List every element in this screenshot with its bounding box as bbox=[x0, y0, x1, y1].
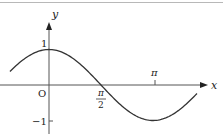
x-tick-label-half-pi-numerator: π bbox=[97, 88, 105, 98]
y-axis-arrow-icon bbox=[46, 22, 52, 30]
y-tick-label-neg-one: −1 bbox=[32, 116, 47, 127]
y-tick-label-one: 1 bbox=[41, 38, 47, 49]
x-axis-label: x bbox=[211, 79, 218, 92]
origin-label: O bbox=[38, 88, 46, 99]
x-axis-arrow-icon bbox=[200, 82, 208, 88]
x-tick-label-pi: π bbox=[150, 67, 158, 78]
x-tick-label-half-pi-denominator: 2 bbox=[98, 100, 104, 110]
y-axis-label: y bbox=[51, 8, 59, 21]
cosine-graph: y x O 1 −1 π 2 π bbox=[0, 0, 223, 139]
